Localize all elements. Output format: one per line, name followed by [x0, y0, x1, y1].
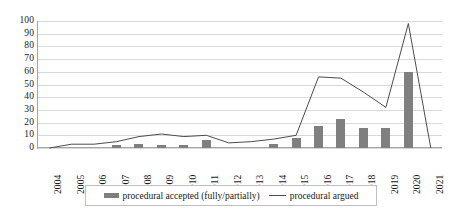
y-axis-tick-label: 10: [0, 130, 34, 140]
y-axis-tick-label: 40: [0, 92, 34, 102]
x-axis-tick-labels: 2004200520062007200820092010201120122013…: [38, 150, 442, 184]
y-axis-tick-labels: 1009080706050403020100: [0, 21, 34, 148]
y-axis-tick-label: 100: [0, 16, 34, 26]
x-axis-tick-label: 2020: [412, 182, 422, 194]
y-axis-tick-label: 60: [0, 67, 34, 77]
line-series-procedural-argued: [38, 21, 442, 148]
legend-entry: procedural accepted (fully/partially): [104, 191, 260, 201]
legend-bar-swatch-icon: [104, 193, 119, 198]
legend-entry: procedural argued: [269, 191, 359, 201]
chart-legend: procedural accepted (fully/partially)pro…: [85, 185, 377, 206]
chart-container: 1009080706050403020100 20042005200620072…: [0, 0, 460, 217]
x-axis-tick-label: 2019: [390, 182, 400, 194]
plot-area: [38, 21, 442, 148]
y-axis-tick-label: 0: [0, 143, 34, 153]
y-axis-tick-label: 70: [0, 54, 34, 64]
x-axis-tick-label: 2004: [53, 182, 63, 194]
y-axis-tick-label: 50: [0, 80, 34, 90]
legend-label: procedural accepted (fully/partially): [123, 191, 260, 201]
y-axis-tick-label: 20: [0, 118, 34, 128]
x-axis-tick-label: 2021: [435, 182, 445, 194]
y-axis-tick-label: 90: [0, 29, 34, 39]
y-axis-tick-label: 30: [0, 105, 34, 115]
legend-label: procedural argued: [290, 191, 359, 201]
legend-line-swatch-icon: [269, 195, 286, 196]
gridline: [38, 148, 442, 149]
y-axis-tick-label: 80: [0, 41, 34, 51]
